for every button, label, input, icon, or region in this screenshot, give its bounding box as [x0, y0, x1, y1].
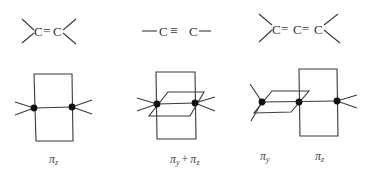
carbon-atom: C: [34, 24, 43, 39]
carbon-atom: C: [314, 22, 323, 37]
carbon-nucleus: [31, 105, 38, 112]
orbital-label-pi-y: πy: [260, 149, 270, 164]
pz-plane: [299, 69, 338, 136]
carbon-nucleus: [259, 99, 266, 106]
carbon-nucleus: [334, 98, 341, 105]
pz-plane: [156, 72, 196, 139]
substituent-bond: [324, 30, 340, 43]
sigma-bond: [157, 103, 195, 104]
substituent-bond: [22, 19, 34, 30]
triple-bond: ≡: [170, 23, 177, 38]
double-bond: =: [281, 21, 288, 36]
allene-orbital: [250, 69, 357, 136]
sigma-bond: [34, 107, 72, 108]
acetylene-formula: C ≡ C: [142, 23, 211, 39]
substituent-bond: [259, 14, 272, 25]
carbon-atom: C: [272, 22, 281, 37]
carbon-atom: C: [293, 22, 302, 37]
substituent-bond: [63, 19, 76, 30]
ethylene-orbital: [15, 74, 92, 141]
carbon-atom: C: [189, 24, 198, 39]
carbon-atom: C: [53, 24, 62, 39]
double-bond: =: [302, 21, 309, 36]
substituent-bond: [22, 33, 34, 43]
orbital-label-pi-z: πz: [315, 149, 325, 164]
substituent-bond: [324, 14, 338, 25]
ethylene-formula: C = C: [22, 19, 76, 44]
orbital-label-pi-z: πz: [49, 152, 59, 167]
orbital-label-pi-y-plus-pi-z: πy+πz: [170, 152, 200, 167]
carbon-nucleus: [296, 99, 303, 106]
substituent-bond: [259, 30, 272, 42]
carbon-nucleus: [69, 104, 76, 111]
carbon-atom: C: [159, 24, 168, 39]
substituent-bond: [63, 33, 76, 44]
acetylene-orbital: [137, 72, 215, 139]
carbon-nucleus: [192, 100, 199, 107]
carbon-nucleus: [154, 101, 161, 108]
allene-formula: C = C = C: [259, 14, 340, 43]
double-bond: =: [43, 23, 50, 38]
pi-bond-diagram: C = C πz C ≡ C πy+πz: [0, 0, 369, 179]
